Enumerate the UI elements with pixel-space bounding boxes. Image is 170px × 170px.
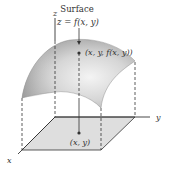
- domain-point: [77, 131, 80, 134]
- z-axis-label: z: [52, 9, 58, 18]
- x-axis-label: x: [7, 156, 12, 165]
- y-axis-label: y: [155, 113, 161, 122]
- point-2d-label: (x, y): [70, 138, 90, 147]
- point-3d-label: (x, y, f(x, y)): [85, 48, 133, 57]
- surface-title: Surface: [60, 4, 93, 14]
- surface-point: [77, 51, 80, 54]
- surface-equation: z = f(x, y): [56, 17, 99, 27]
- surface-diagram: Surface z = f(x, y) (x, y, f(x, y)) (x, …: [0, 0, 170, 170]
